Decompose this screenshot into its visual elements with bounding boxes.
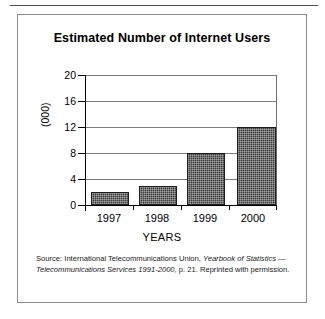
y-axis-title: (000) xyxy=(39,102,51,127)
xtick-label-1998: 1998 xyxy=(133,212,181,224)
xtick-label-1997: 1997 xyxy=(85,212,133,224)
bars-container xyxy=(85,75,276,205)
xtick-label-1999: 1999 xyxy=(181,212,229,224)
ytick-label-0: 0 xyxy=(54,200,76,210)
ytick-label-12-holder: 12 xyxy=(28,122,76,132)
ytick-label-4: 4 xyxy=(54,174,76,184)
bar-2000[interactable] xyxy=(237,127,276,205)
xtick-mark-0 xyxy=(85,205,86,210)
ytick-label-8: 8 xyxy=(54,148,76,158)
ytick-label-12: 12 xyxy=(54,122,76,132)
x-axis-title: YEARS xyxy=(18,231,306,243)
ytick-label-4-holder: 4 xyxy=(28,174,76,184)
figure-box: Estimated Number of Internet Users 20 16… xyxy=(17,14,307,303)
ytick-mark-8 xyxy=(78,153,85,154)
xtick-mark-1 xyxy=(133,205,134,210)
source-note: Source: International Telecommunications… xyxy=(36,254,291,275)
xtick-mark-4 xyxy=(276,205,277,210)
xtick-mark-2 xyxy=(181,205,182,210)
page-top-rule xyxy=(10,5,318,6)
ytick-mark-4 xyxy=(78,179,85,180)
ytick-label-20: 20 xyxy=(54,70,76,80)
source-note-dash: — xyxy=(276,254,286,263)
source-note-title-1: Yearbook of Statistics xyxy=(203,254,276,263)
ytick-label-20-holder: 20 xyxy=(28,70,76,80)
ytick-label-0-holder: 0 xyxy=(28,200,76,210)
ytick-mark-20 xyxy=(78,75,85,76)
ytick-mark-12 xyxy=(78,127,85,128)
bar-1997[interactable] xyxy=(91,192,129,205)
xtick-mark-3 xyxy=(229,205,230,210)
plot-right-border xyxy=(276,75,277,205)
source-note-lead: Source: International Telecommunications… xyxy=(36,254,203,263)
ytick-label-8-holder: 8 xyxy=(28,148,76,158)
ytick-label-16-holder: 16 xyxy=(28,96,76,106)
ytick-mark-16 xyxy=(78,101,85,102)
ytick-label-16: 16 xyxy=(54,96,76,106)
source-note-tail: , p. 21. Reprinted with permission. xyxy=(175,265,290,274)
bar-1999[interactable] xyxy=(187,153,225,205)
bar-1998[interactable] xyxy=(139,186,177,206)
xtick-label-2000: 2000 xyxy=(229,212,277,224)
x-axis-line xyxy=(78,205,277,206)
source-note-title-2: Telecommunications Services 1991-2000 xyxy=(36,265,175,274)
